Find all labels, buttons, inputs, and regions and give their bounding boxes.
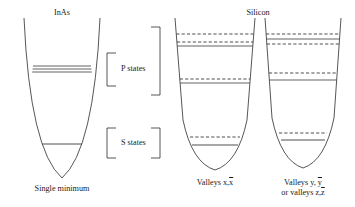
title-inas: InAs bbox=[54, 8, 70, 18]
caption-valleys-yz-line2-bar: z bbox=[321, 188, 325, 197]
energy-level-diagram bbox=[0, 0, 355, 207]
label-p-states: P states bbox=[121, 64, 146, 74]
caption-inas: Single minimum bbox=[35, 184, 90, 194]
title-silicon: Silicon bbox=[246, 8, 269, 18]
caption-valleys-x-bar: x bbox=[229, 178, 233, 187]
caption-valleys-yz-line1: Valleys y, bbox=[284, 178, 318, 187]
caption-valleys-yz: Valleys y, yor valleys z,z bbox=[281, 178, 324, 197]
figure-background bbox=[0, 0, 355, 207]
caption-valleys-x: Valleys x,x bbox=[197, 178, 233, 188]
caption-valleys-yz-line1-bar: y bbox=[318, 178, 322, 187]
caption-valleys-yz-line2: or valleys z, bbox=[281, 188, 321, 197]
label-s-states: S states bbox=[121, 138, 146, 148]
caption-valleys-x-text: Valleys x, bbox=[197, 178, 229, 187]
